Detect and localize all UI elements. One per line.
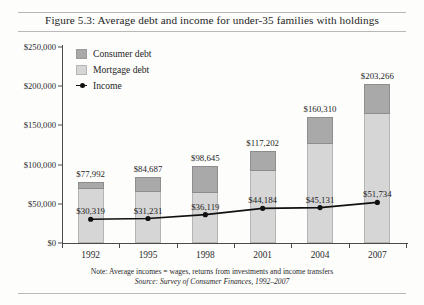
income-value-label: $36,119 bbox=[191, 202, 219, 212]
x-axis-tick-mark bbox=[62, 243, 63, 248]
x-axis-tick-mark bbox=[234, 243, 235, 248]
x-axis-tick-label: 2004 bbox=[311, 250, 330, 260]
x-axis-tick-label: 2007 bbox=[368, 250, 387, 260]
legend-item-consumer: Consumer debt bbox=[76, 46, 151, 61]
bar-segment-consumer-debt bbox=[364, 84, 390, 114]
bar-segment-consumer-debt bbox=[192, 166, 218, 193]
x-axis-tick-label: 1995 bbox=[139, 250, 158, 260]
bar-group bbox=[307, 47, 333, 243]
income-value-label: $51,734 bbox=[363, 189, 392, 199]
bar-segment-mortgage-debt bbox=[135, 191, 161, 243]
income-value-label: $31,231 bbox=[134, 206, 163, 216]
income-value-label: $44,184 bbox=[248, 195, 277, 205]
title-divider bbox=[18, 31, 406, 32]
figure-title: Figure 5.3: Average debt and income for … bbox=[0, 14, 424, 26]
bar-total-label: $98,645 bbox=[191, 153, 220, 163]
y-axis-tick-mark bbox=[58, 86, 62, 87]
x-axis-tick-mark bbox=[291, 243, 292, 248]
bar-total-label: $117,202 bbox=[246, 138, 279, 148]
y-axis-tick-label: $100,000 bbox=[24, 160, 62, 170]
y-axis-tick-label: $250,000 bbox=[24, 42, 62, 52]
bar-segment-mortgage-debt bbox=[307, 143, 333, 243]
bar-segment-consumer-debt bbox=[250, 151, 276, 171]
bar-group bbox=[192, 47, 218, 243]
legend-item-income: Income bbox=[76, 78, 151, 93]
x-axis-tick-mark bbox=[119, 243, 120, 248]
bar-segment-mortgage-debt bbox=[364, 113, 390, 243]
figure-note: Note: Average incomes = wages, returns f… bbox=[0, 267, 424, 276]
figure-page: Figure 5.3: Average debt and income for … bbox=[0, 0, 424, 305]
y-axis-tick-label: $150,000 bbox=[24, 120, 62, 130]
bar-total-label: $84,687 bbox=[134, 164, 163, 174]
top-divider bbox=[18, 12, 406, 13]
bottom-divider bbox=[18, 293, 406, 294]
legend-item-mortgage: Mortgage debt bbox=[76, 62, 151, 77]
chart-legend: Consumer debt Mortgage debt Income bbox=[76, 46, 151, 94]
y-axis-tick-label: $200,000 bbox=[24, 81, 62, 91]
legend-label-mortgage: Mortgage debt bbox=[93, 64, 149, 75]
x-axis-tick-label: 2001 bbox=[253, 250, 272, 260]
x-axis-tick-label: 1992 bbox=[81, 250, 100, 260]
bar-segment-mortgage-debt bbox=[250, 170, 276, 243]
y-axis-tick-mark bbox=[58, 125, 62, 126]
x-axis-tick-mark bbox=[177, 243, 178, 248]
x-axis-tick-mark bbox=[406, 243, 407, 248]
bar-segment-consumer-debt bbox=[307, 117, 333, 144]
x-axis-line bbox=[62, 243, 408, 244]
bar-segment-consumer-debt bbox=[78, 182, 104, 189]
legend-label-consumer: Consumer debt bbox=[93, 48, 151, 59]
bar-total-label: $160,310 bbox=[304, 104, 337, 114]
bar-total-label: $203,266 bbox=[361, 71, 394, 81]
mortgage-debt-swatch-icon bbox=[76, 65, 87, 75]
y-axis-tick-mark bbox=[58, 203, 62, 204]
income-value-label: $45,131 bbox=[306, 195, 335, 205]
bar-segment-mortgage-debt bbox=[192, 192, 218, 243]
consumer-debt-swatch-icon bbox=[76, 49, 87, 59]
income-line-marker-icon bbox=[76, 81, 87, 91]
y-axis-tick-mark bbox=[58, 164, 62, 165]
income-value-label: $30,319 bbox=[76, 206, 105, 216]
x-axis-tick-label: 1998 bbox=[196, 250, 215, 260]
figure-source: Source: Survey of Consumer Finances, 199… bbox=[0, 277, 424, 286]
bar-segment-consumer-debt bbox=[135, 177, 161, 193]
legend-label-income: Income bbox=[93, 80, 122, 91]
x-axis-tick-mark bbox=[349, 243, 350, 248]
bar-total-label: $77,992 bbox=[76, 169, 105, 179]
y-axis-tick-mark bbox=[58, 47, 62, 48]
y-axis-tick-label: $50,000 bbox=[28, 199, 62, 209]
